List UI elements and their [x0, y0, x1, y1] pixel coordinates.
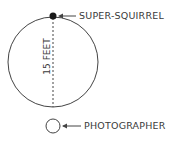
photographer-label: PHOTOGRAPHER — [84, 121, 166, 131]
squirrel-label: SUPER-SQUIRREL — [79, 11, 164, 21]
diameter-label: 15 FEET — [43, 32, 52, 82]
squirrel-dot-icon — [50, 13, 57, 20]
photographer-arrowhead-icon — [62, 124, 67, 129]
photographer-circle-icon — [46, 119, 60, 133]
